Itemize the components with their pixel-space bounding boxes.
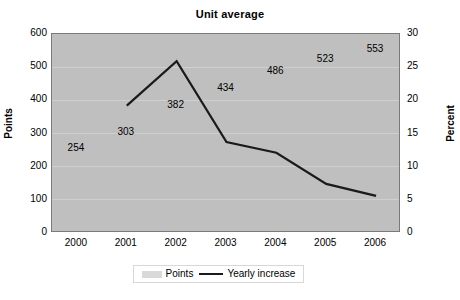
points-data-label: 382 [156, 100, 196, 110]
legend-item-yearly-increase[interactable]: Yearly increase [199, 269, 295, 279]
y-axis-left-tick: 500 [3, 61, 47, 71]
y-axis-left-tick: 300 [3, 128, 47, 138]
y-axis-right-tick: 0 [407, 227, 447, 237]
line-segment-icon [199, 273, 223, 275]
points-data-label: 303 [106, 127, 146, 137]
yearly-increase-polyline [127, 61, 376, 196]
points-data-label: 553 [355, 44, 395, 54]
y-axis-left-tick: 0 [3, 227, 47, 237]
y-axis-left-tick: 100 [3, 194, 47, 204]
legend-item-yearly-increase-label: Yearly increase [227, 269, 295, 279]
y-axis-right-tick: 20 [407, 94, 447, 104]
x-axis-tick: 2004 [250, 238, 300, 248]
y-axis-right-tick: 15 [407, 128, 447, 138]
points-data-label: 254 [56, 143, 96, 153]
chart-container: Unit average Points Percent 010020030040… [0, 0, 460, 300]
x-axis-tick: 2006 [350, 238, 400, 248]
x-axis-tick: 2001 [101, 238, 151, 248]
plot-area [51, 33, 400, 232]
points-data-label: 523 [305, 54, 345, 64]
y-axis-left-tick: 400 [3, 94, 47, 104]
x-axis-tick: 2000 [51, 238, 101, 248]
y-axis-right-tick: 10 [407, 161, 447, 171]
x-axis-tick: 2005 [300, 238, 350, 248]
points-data-label: 434 [206, 83, 246, 93]
series-line-yearly-increase [52, 34, 401, 233]
x-axis-tick: 2002 [151, 238, 201, 248]
y-axis-left-tick: 600 [3, 28, 47, 38]
y-axis-right-tick: 30 [407, 28, 447, 38]
points-data-label: 486 [255, 66, 295, 76]
y-axis-right-tick: 25 [407, 61, 447, 71]
legend-item-points-label: Points [166, 269, 194, 279]
points-swatch-icon [142, 271, 162, 278]
x-axis-tick: 2003 [201, 238, 251, 248]
legend-item-points[interactable]: Points [142, 269, 194, 279]
chart-legend: Points Yearly increase [133, 265, 304, 283]
y-axis-left-tick: 200 [3, 161, 47, 171]
chart-title: Unit average [0, 8, 460, 20]
y-axis-right-tick: 5 [407, 194, 447, 204]
